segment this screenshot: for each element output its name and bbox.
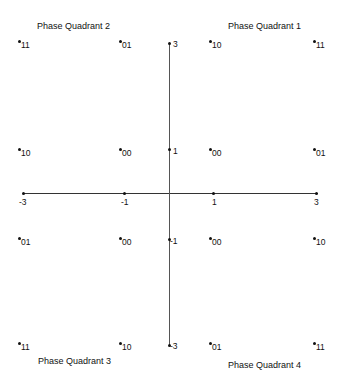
x-tick-label: -1: [121, 197, 129, 207]
vertical-axis: [169, 43, 170, 346]
symbol-label: 01: [21, 237, 30, 247]
y-tick-label: -1: [170, 236, 178, 246]
x-tick-dot: [22, 192, 25, 195]
x-tick-label: 3: [314, 197, 319, 207]
y-tick-dot: [168, 148, 171, 151]
symbol-label: 10: [212, 40, 221, 50]
x-tick-label: -3: [19, 197, 27, 207]
symbol-label: 11: [21, 40, 30, 50]
symbol-label: 10: [316, 237, 325, 247]
symbol-label: 01: [212, 342, 221, 352]
symbol-label: 00: [212, 237, 221, 247]
quadrant-3-title: Phase Quadrant 3: [38, 356, 111, 366]
symbol-label: 11: [21, 342, 30, 352]
quadrant-2-title: Phase Quadrant 2: [37, 21, 110, 31]
quadrant-1-title: Phase Quadrant 1: [228, 21, 301, 31]
symbol-label: 10: [122, 342, 131, 352]
x-tick-label: 1: [212, 197, 217, 207]
symbol-label: 11: [316, 342, 325, 352]
x-tick-dot: [212, 192, 215, 195]
y-tick-label: -3: [170, 341, 178, 351]
symbol-label: 01: [316, 148, 325, 158]
y-tick-dot: [168, 42, 171, 45]
symbol-label: 00: [122, 237, 131, 247]
symbol-label: 00: [122, 148, 131, 158]
y-tick-label: 3: [173, 39, 178, 49]
symbol-label: 01: [122, 40, 131, 50]
symbol-label: 00: [212, 148, 221, 158]
x-tick-dot: [123, 192, 126, 195]
quadrant-4-title: Phase Quadrant 4: [228, 360, 301, 370]
horizontal-axis: [23, 193, 318, 194]
symbol-label: 11: [316, 40, 325, 50]
symbol-label: 10: [21, 148, 30, 158]
y-tick-label: 1: [173, 146, 178, 156]
x-tick-dot: [315, 192, 318, 195]
